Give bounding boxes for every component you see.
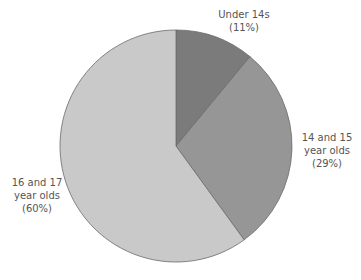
- label-under-14s: Under 14s (11%): [214, 8, 274, 34]
- label-16-and-17: 16 and 17 year olds (60%): [6, 176, 68, 215]
- label-14-and-15: 14 and 15 year olds (29%): [296, 131, 358, 170]
- pie-slices: [60, 30, 292, 262]
